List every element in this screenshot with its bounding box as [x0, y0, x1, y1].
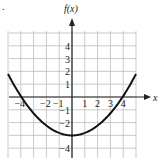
y-axis-label: f(x): [64, 3, 79, 15]
x-axis-label: x: [152, 92, 158, 103]
x-tick-label: −4: [14, 98, 25, 109]
x-tick-label: 1: [82, 98, 87, 109]
x-tick-label: 3: [108, 98, 113, 109]
y-tick-label: 2: [65, 66, 70, 77]
x-tick-label: 4: [121, 98, 126, 109]
y-tick-label: −1: [59, 105, 70, 116]
y-tick-label: −2: [59, 118, 70, 129]
corner-mark: .: [2, 1, 5, 12]
x-tick-label: −2: [40, 98, 51, 109]
y-tick-label: 1: [65, 79, 70, 90]
axes: [9, 18, 151, 158]
y-tick-label: 4: [65, 41, 70, 52]
y-tick-label: 3: [65, 54, 70, 65]
function-graph: −4−2−112344321−1−2−4 . f(x) x: [0, 0, 158, 158]
x-tick-label: 2: [95, 98, 100, 109]
y-tick-label: −4: [59, 143, 70, 154]
